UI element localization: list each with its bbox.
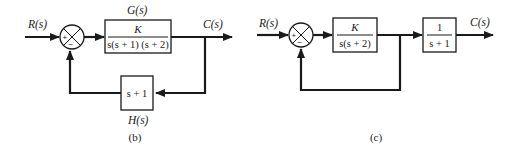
feedback-block-h: s + 1 [121, 76, 153, 110]
output-label-c: C(s) [470, 16, 490, 29]
summing-junction-c: + − [289, 23, 313, 47]
minus-sign-c: − [298, 38, 303, 47]
feedback-path-left-b [70, 51, 121, 93]
forward-block-g: K s(s + 1) (s + 2) [105, 20, 171, 53]
plus-sign-c: + [292, 31, 297, 40]
input-label-c: R(s) [258, 17, 278, 30]
plus-sign-b: + [63, 33, 68, 42]
diagram-c: R(s) + − K s(s + 2) 1 s + 1 C(s) (c) [257, 16, 493, 144]
block-2-numerator: 1 [437, 22, 442, 33]
input-label-b: R(s) [27, 18, 47, 31]
block-1-numerator: K [350, 21, 359, 33]
block-2-c: 1 s + 1 [423, 18, 456, 52]
caption-b: (b) [129, 131, 142, 144]
h-label: H(s) [127, 114, 149, 127]
caption-c: (c) [370, 131, 383, 144]
output-label-b: C(s) [203, 18, 223, 31]
g-label: G(s) [127, 4, 148, 17]
minus-sign-b: − [69, 40, 74, 49]
block-2-denominator: s + 1 [429, 38, 450, 49]
summing-junction-b: + − [60, 25, 84, 49]
g-numerator: K [133, 23, 142, 35]
block-diagrams: R(s) + − G(s) K s(s + 1) (s + 2) C(s) s … [0, 0, 509, 156]
h-expression: s + 1 [127, 88, 148, 99]
diagram-b: R(s) + − G(s) K s(s + 1) (s + 2) C(s) s … [25, 4, 232, 144]
g-denominator: s(s + 1) (s + 2) [107, 39, 169, 51]
block-1-denominator: s(s + 2) [339, 38, 371, 50]
block-1-c: K s(s + 2) [333, 18, 377, 52]
